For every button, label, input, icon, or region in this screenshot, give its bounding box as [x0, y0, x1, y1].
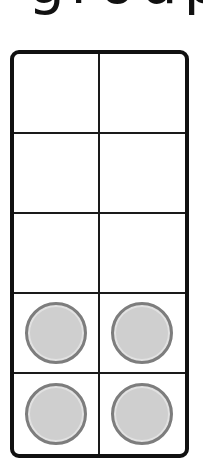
ten-frame-grid [14, 54, 185, 454]
frame-cell [100, 374, 186, 454]
ten-frame [10, 50, 189, 458]
frame-cell [100, 134, 186, 214]
counter-circle [25, 383, 87, 445]
counter-circle [111, 383, 173, 445]
frame-cell [14, 134, 100, 214]
heading-text: group [28, 0, 203, 12]
heading-clip: group [0, 0, 203, 22]
frame-cell [14, 294, 100, 374]
frame-cell [100, 294, 186, 374]
frame-cell [14, 54, 100, 134]
counter-circle [111, 302, 173, 364]
frame-cell [14, 214, 100, 294]
frame-cell [14, 374, 100, 454]
counter-circle [25, 302, 87, 364]
frame-cell [100, 214, 186, 294]
frame-cell [100, 54, 186, 134]
